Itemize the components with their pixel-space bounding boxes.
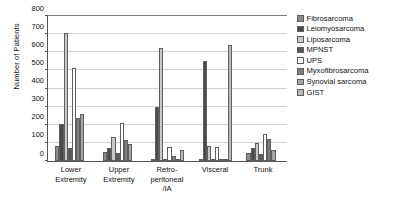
y-tick-label: 800 bbox=[31, 5, 44, 13]
legend-label: GIST bbox=[307, 89, 325, 97]
x-tick-label: Visceral bbox=[191, 165, 239, 194]
legend-item[interactable]: Fibrosarcoma bbox=[297, 13, 369, 24]
legend-label: Liposarcoma bbox=[307, 36, 350, 44]
legend-swatch-icon bbox=[297, 68, 304, 75]
x-tick-label: LowerExtremity bbox=[47, 165, 95, 194]
bar bbox=[180, 150, 184, 161]
bar-groups bbox=[48, 16, 287, 161]
legend-swatch-icon bbox=[297, 89, 304, 96]
legend-label: MPNST bbox=[307, 46, 334, 54]
x-tick-label: Trunk bbox=[239, 165, 287, 194]
y-tick-label: 100 bbox=[31, 132, 44, 140]
bar bbox=[80, 114, 84, 161]
legend-swatch-icon bbox=[297, 47, 304, 54]
bar bbox=[159, 48, 163, 161]
y-tick-label: 0 bbox=[40, 150, 44, 158]
legend-label: Myxofibrosarcoma bbox=[307, 67, 369, 75]
x-tick-label: Retro-peritoneal/IA bbox=[143, 165, 191, 194]
legend-swatch-icon bbox=[297, 15, 304, 22]
bar bbox=[228, 45, 232, 161]
bar bbox=[64, 33, 68, 161]
x-axis-labels: LowerExtremityUpperExtremityRetro-perito… bbox=[47, 165, 287, 194]
legend-item[interactable]: MPNST bbox=[297, 45, 369, 56]
bar-chart-figure: Number of Patients 010020030040050060070… bbox=[0, 0, 405, 214]
bar-group bbox=[96, 16, 144, 161]
legend-label: Leiomyosarcoma bbox=[307, 25, 365, 33]
legend-item[interactable]: Myxofibrosarcoma bbox=[297, 66, 369, 77]
legend-item[interactable]: Leiomyosarcoma bbox=[297, 24, 369, 35]
legend-item[interactable]: Liposarcoma bbox=[297, 34, 369, 45]
y-axis-label: Number of Patients bbox=[12, 0, 21, 117]
y-tick-label: 700 bbox=[31, 23, 44, 31]
y-tick-label: 600 bbox=[31, 41, 44, 49]
x-tick-label: UpperExtremity bbox=[95, 165, 143, 194]
legend-label: Fibrosarcoma bbox=[307, 15, 353, 23]
y-tick-label: 400 bbox=[31, 77, 44, 85]
bar bbox=[271, 150, 275, 161]
bar-group bbox=[191, 16, 239, 161]
legend-label: UPS bbox=[307, 57, 323, 65]
legend-item[interactable]: Synovial sarcoma bbox=[297, 77, 369, 88]
bar-group bbox=[239, 16, 287, 161]
plot-area: 0100200300400500600700800 bbox=[47, 16, 287, 162]
y-tick-label: 500 bbox=[31, 59, 44, 67]
legend-item[interactable]: UPS bbox=[297, 55, 369, 66]
legend-item[interactable]: GIST bbox=[297, 87, 369, 98]
legend-swatch-icon bbox=[297, 79, 304, 86]
legend-swatch-icon bbox=[297, 57, 304, 64]
bar-group bbox=[48, 16, 96, 161]
y-tick-label: 300 bbox=[31, 95, 44, 103]
chart-legend: FibrosarcomaLeiomyosarcomaLiposarcomaMPN… bbox=[297, 13, 369, 98]
legend-label: Synovial sarcoma bbox=[307, 78, 367, 86]
bar bbox=[128, 144, 132, 161]
legend-swatch-icon bbox=[297, 26, 304, 33]
y-tick-label: 200 bbox=[31, 114, 44, 122]
bar-group bbox=[144, 16, 192, 161]
legend-swatch-icon bbox=[297, 36, 304, 43]
